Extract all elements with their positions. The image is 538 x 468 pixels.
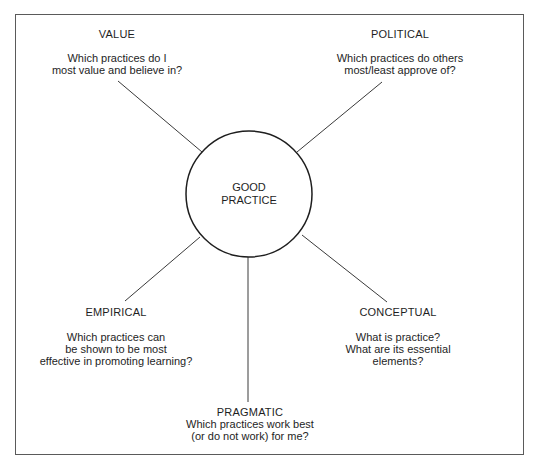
node-pragmatic-question: Which practices work best (or do not wor… [186, 418, 314, 442]
node-empirical-question-line: be shown to be most [40, 343, 193, 355]
node-conceptual-question-line: elements? [345, 355, 450, 367]
center-label-line-2: PRACTICE [221, 194, 277, 207]
node-political-question-line: most/least approve of? [337, 64, 464, 76]
node-empirical-question-line: effective in promoting learning? [40, 355, 193, 367]
node-conceptual-heading: CONCEPTUAL [345, 306, 450, 318]
node-political-question: Which practices do others most/least app… [337, 52, 464, 76]
node-empirical-question: Which practices can be shown to be most … [40, 331, 193, 367]
node-empirical-question-line: Which practices can [40, 331, 193, 343]
connector-value [118, 81, 202, 152]
node-conceptual-question-line: What is practice? [345, 331, 450, 343]
node-value-question: Which practices do I most value and beli… [52, 52, 182, 76]
node-political: POLITICAL Which practices do others most… [337, 28, 464, 76]
node-pragmatic-question-line: (or do not work) for me? [186, 430, 314, 442]
node-value: VALUE Which practices do I most value an… [52, 28, 182, 76]
node-conceptual-question-line: What are its essential [345, 343, 450, 355]
node-value-question-line: most value and believe in? [52, 64, 182, 76]
node-pragmatic-question-line: Which practices work best [186, 418, 314, 430]
node-pragmatic-heading: PRAGMATIC [186, 406, 314, 418]
connector-political [297, 82, 382, 152]
center-label-line-1: GOOD [221, 181, 277, 194]
node-conceptual: CONCEPTUAL What is practice? What are it… [345, 306, 450, 367]
node-political-heading: POLITICAL [337, 28, 464, 40]
center-label: GOOD PRACTICE [221, 181, 277, 206]
node-pragmatic: PRAGMATIC Which practices work best (or … [186, 406, 314, 442]
node-political-question-line: Which practices do others [337, 52, 464, 64]
node-value-heading: VALUE [52, 28, 182, 40]
node-empirical-heading: EMPIRICAL [40, 306, 193, 318]
node-value-question-line: Which practices do I [52, 52, 182, 64]
node-empirical: EMPIRICAL Which practices can be shown t… [40, 306, 193, 367]
connector-conceptual [302, 235, 387, 302]
node-conceptual-question: What is practice? What are its essential… [345, 331, 450, 367]
connector-empirical [125, 237, 200, 301]
